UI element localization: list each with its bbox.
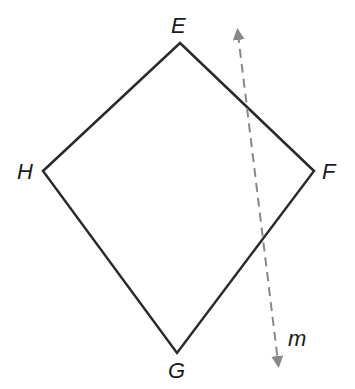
label-m: m [288, 326, 306, 351]
label-F: F [322, 159, 337, 184]
quadrilateral-EFGH [43, 43, 314, 353]
label-E: E [171, 13, 186, 38]
kite-diagram: E F G H m [0, 0, 355, 389]
label-H: H [17, 159, 33, 184]
label-G: G [168, 358, 185, 383]
line-m [238, 34, 278, 362]
